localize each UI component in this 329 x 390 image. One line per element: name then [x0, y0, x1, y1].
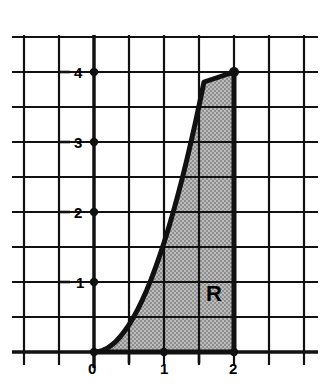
x-tick-label-1: 1 — [160, 361, 168, 376]
y-tick-label-1: 1 — [76, 275, 84, 290]
y-tick-label-4: 4 — [74, 65, 82, 80]
x-tick-label-0: 0 — [88, 361, 96, 376]
curve-endpoint-dot — [229, 67, 239, 77]
region-label-R: R — [206, 283, 222, 305]
y-tick-label-3: 3 — [74, 135, 82, 150]
y-tick-dot-4 — [90, 68, 98, 76]
x-tick-dot-2 — [230, 348, 238, 356]
y-tick-label-2: 2 — [74, 205, 82, 220]
y-tick-dot-2 — [90, 208, 98, 216]
y-tick-dot-1 — [90, 278, 98, 286]
x-tick-dot-1 — [160, 348, 168, 356]
plot-canvas — [0, 0, 329, 390]
graph-figure: 4 3 2 1 0 1 2 R — [0, 0, 329, 390]
x-tick-label-2: 2 — [229, 361, 237, 376]
x-tick-dot-0 — [90, 348, 98, 356]
grid-vertical-lines — [24, 35, 304, 365]
y-tick-dot-3 — [90, 138, 98, 146]
